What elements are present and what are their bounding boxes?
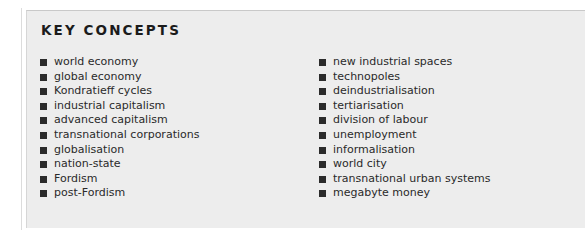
concept-label: global economy: [54, 70, 142, 85]
concept-label: Kondratieff cycles: [54, 84, 152, 99]
list-item: transnational urban systems: [319, 172, 579, 187]
square-bullet-icon: [40, 103, 47, 110]
concept-list-left: world economyglobal economyKondratieff c…: [40, 55, 310, 201]
square-bullet-icon: [319, 88, 326, 95]
concept-list-right: new industrial spacestechnopolesdeindust…: [319, 55, 579, 201]
square-bullet-icon: [40, 161, 47, 168]
square-bullet-icon: [319, 59, 326, 66]
square-bullet-icon: [40, 147, 47, 154]
concept-label: world economy: [54, 55, 138, 70]
list-item: tertiarisation: [319, 99, 579, 114]
concept-label: world city: [333, 157, 387, 172]
concept-label: new industrial spaces: [333, 55, 452, 70]
square-bullet-icon: [319, 190, 326, 197]
list-item: nation-state: [40, 157, 310, 172]
concept-label: nation-state: [54, 157, 121, 172]
concept-label: technopoles: [333, 70, 400, 85]
panel-left-rule: [21, 8, 22, 230]
concept-label: transnational corporations: [54, 128, 199, 143]
concept-label: Fordism: [54, 172, 97, 187]
list-item: informalisation: [319, 143, 579, 158]
concept-label: informalisation: [333, 143, 415, 158]
square-bullet-icon: [319, 161, 326, 168]
list-item: advanced capitalism: [40, 113, 310, 128]
list-item: deindustrialisation: [319, 84, 579, 99]
list-item: technopoles: [319, 70, 579, 85]
list-item: new industrial spaces: [319, 55, 579, 70]
concept-label: unemployment: [333, 128, 416, 143]
list-item: industrial capitalism: [40, 99, 310, 114]
list-item: globalisation: [40, 143, 310, 158]
square-bullet-icon: [319, 132, 326, 139]
square-bullet-icon: [319, 176, 326, 183]
list-item: division of labour: [319, 113, 579, 128]
list-item: world city: [319, 157, 579, 172]
list-item: Fordism: [40, 172, 310, 187]
square-bullet-icon: [40, 190, 47, 197]
list-item: transnational corporations: [40, 128, 310, 143]
square-bullet-icon: [40, 176, 47, 183]
list-item: Kondratieff cycles: [40, 84, 310, 99]
key-concepts-panel: KEY CONCEPTS world economyglobal economy…: [26, 10, 585, 228]
list-item: megabyte money: [319, 186, 579, 201]
square-bullet-icon: [40, 88, 47, 95]
concept-label: industrial capitalism: [54, 99, 165, 114]
concept-label: transnational urban systems: [333, 172, 491, 187]
list-item: post-Fordism: [40, 186, 310, 201]
page-title: KEY CONCEPTS: [41, 22, 181, 38]
list-item: global economy: [40, 70, 310, 85]
square-bullet-icon: [319, 147, 326, 154]
square-bullet-icon: [40, 59, 47, 66]
square-bullet-icon: [319, 103, 326, 110]
concept-label: post-Fordism: [54, 186, 125, 201]
concept-label: deindustrialisation: [333, 84, 435, 99]
square-bullet-icon: [40, 132, 47, 139]
concept-label: division of labour: [333, 113, 428, 128]
list-item: world economy: [40, 55, 310, 70]
concept-label: tertiarisation: [333, 99, 404, 114]
square-bullet-icon: [319, 74, 326, 81]
square-bullet-icon: [319, 117, 326, 124]
list-item: unemployment: [319, 128, 579, 143]
square-bullet-icon: [40, 117, 47, 124]
concept-label: advanced capitalism: [54, 113, 168, 128]
concept-label: megabyte money: [333, 186, 430, 201]
square-bullet-icon: [40, 74, 47, 81]
concept-label: globalisation: [54, 143, 124, 158]
